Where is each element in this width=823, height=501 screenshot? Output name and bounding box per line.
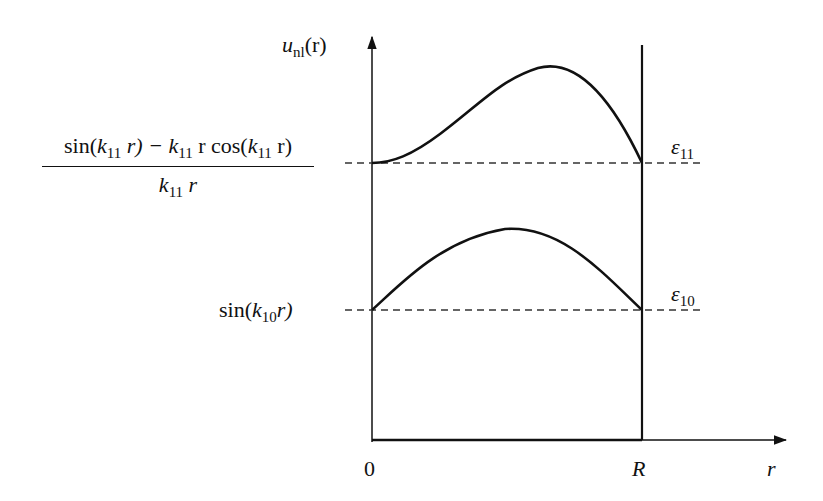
wf10-text: sin( bbox=[219, 297, 252, 322]
energy-label-11: ε11 bbox=[671, 136, 694, 162]
wavefunction-11-label: sin(k11 r) − k11 r cos(k11 r) k11 r bbox=[42, 133, 314, 201]
x-axis-label: r bbox=[767, 458, 776, 480]
y-label-arg: (r) bbox=[305, 32, 327, 57]
num-text: r) − bbox=[121, 133, 168, 158]
wavefunction-10-curve bbox=[372, 229, 642, 310]
epsilon-symbol: ε bbox=[671, 134, 680, 159]
fraction-numerator: sin(k11 r) − k11 r cos(k11 r) bbox=[42, 133, 314, 167]
num-ksub: 11 bbox=[107, 145, 121, 161]
wf10-text: r) bbox=[277, 297, 293, 322]
y-label-sub: nl bbox=[293, 44, 305, 60]
epsilon-sub: 10 bbox=[680, 293, 695, 309]
num-text: sin( bbox=[64, 133, 97, 158]
num-ksub: 11 bbox=[178, 145, 192, 161]
wavefunction-11-curve bbox=[372, 66, 642, 163]
num-k: k bbox=[97, 133, 107, 158]
energy-label-10: ε10 bbox=[671, 283, 695, 309]
diagram-canvas bbox=[0, 0, 823, 501]
y-label-base: u bbox=[282, 32, 293, 57]
wf10-ksub: 10 bbox=[262, 309, 277, 325]
num-text: r cos( bbox=[193, 133, 248, 158]
epsilon-symbol: ε bbox=[671, 281, 680, 306]
num-ksub: 11 bbox=[257, 145, 271, 161]
den-k: k bbox=[159, 172, 169, 197]
den-ksub: 11 bbox=[169, 184, 183, 200]
x-tick-wall-R: R bbox=[632, 458, 645, 480]
den-r: r bbox=[183, 172, 197, 197]
y-axis-label: unl(r) bbox=[282, 34, 327, 60]
wf10-k: k bbox=[252, 297, 262, 322]
num-k: k bbox=[248, 133, 258, 158]
num-k: k bbox=[168, 133, 178, 158]
x-tick-origin: 0 bbox=[364, 458, 375, 480]
fraction-denominator: k11 r bbox=[42, 167, 314, 201]
wavefunction-10-label: sin(k10r) bbox=[219, 299, 293, 325]
epsilon-sub: 11 bbox=[680, 146, 694, 162]
num-text: r) bbox=[272, 133, 292, 158]
